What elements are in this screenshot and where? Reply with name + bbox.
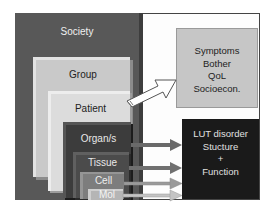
hollow-arrow-icon: [127, 80, 176, 107]
arrow-cell-icon: [124, 178, 182, 189]
arrow-tissue-icon: [129, 162, 182, 174]
arrow-mol-icon: [123, 190, 182, 201]
arrow-organ-icon: [131, 139, 182, 151]
arrows-layer: [0, 0, 279, 223]
